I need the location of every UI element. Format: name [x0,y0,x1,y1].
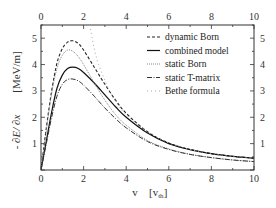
x-tick-label-top: 0 [39,11,44,22]
x-tick-label-top: 8 [209,11,214,22]
y-tick-label-right: 5 [260,33,265,44]
curve-static-born [41,50,254,170]
legend-label: Bethe formula [165,86,220,96]
legend-item: static Born [147,59,207,69]
x-tick-label-top: 6 [166,11,171,22]
legend-item: dynamic Born [147,32,219,42]
x-axis-label-unit: [vth] [149,186,167,200]
legend-label: static Born [165,59,207,69]
chart: 024681002468101234512345 - ∂E/ ∂x [MeV/m… [0,0,276,208]
legend-item: Bethe formula [147,86,220,96]
x-tick-label-top: 4 [124,11,129,22]
legend-item: static T-matrix [147,73,220,83]
x-tick-label-top: 2 [81,11,86,22]
y-tick-label-left: 5 [32,33,37,44]
y-tick-label-right: 4 [260,59,265,70]
legend-label: static T-matrix [165,73,220,83]
y-axis-label-quantity: - ∂E/ ∂x [10,115,22,150]
legend-label: dynamic Born [165,32,219,42]
y-axis-label-unit: [MeV/m] [10,51,22,93]
y-tick-label-right: 1 [260,138,265,149]
x-tick-label-bottom: 6 [166,173,171,184]
x-tick-label-top: 10 [249,11,259,22]
y-axis-label: - ∂E/ ∂x [MeV/m] [10,51,22,149]
x-axis-label: v [vth] [132,186,167,200]
x-tick-label-bottom: 4 [124,173,129,184]
y-tick-label-left: 3 [32,85,37,96]
x-axis-label-var: v [132,186,138,198]
x-tick-label-bottom: 0 [39,173,44,184]
curve-static-t-matrix [41,79,254,170]
y-tick-label-left: 4 [32,59,37,70]
x-tick-label-bottom: 8 [209,173,214,184]
x-tick-label-bottom: 10 [249,173,259,184]
curve-dynamic-born [41,41,254,170]
legend: dynamic Borncombined modelstatic Bornsta… [147,32,229,96]
y-tick-label-right: 2 [260,112,265,123]
legend-label: combined model [165,46,229,56]
legend-item: combined model [147,46,229,56]
y-tick-label-left: 1 [32,138,37,149]
curve-combined-model [41,67,254,170]
x-tick-label-bottom: 2 [81,173,86,184]
y-tick-label-left: 2 [32,112,37,123]
y-tick-label-right: 3 [260,85,265,96]
